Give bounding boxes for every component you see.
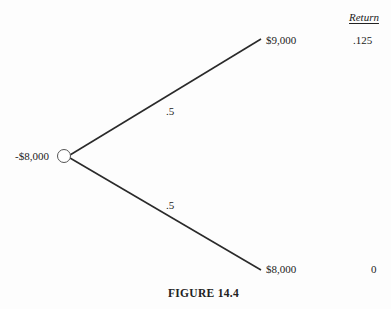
upper-branch-probability: .5 bbox=[166, 105, 174, 117]
branch-line-upper bbox=[70, 39, 261, 155]
lower-branch-probability: .5 bbox=[166, 199, 174, 211]
chance-node-icon bbox=[58, 150, 71, 163]
root-investment-label: -$8,000 bbox=[15, 150, 49, 162]
upper-outcome-return: .125 bbox=[353, 34, 372, 46]
upper-outcome-value: $9,000 bbox=[266, 34, 296, 46]
return-column-header: Return bbox=[349, 11, 379, 23]
decision-tree-diagram bbox=[0, 0, 391, 309]
figure-canvas: Return -$8,000 .5 $9,000 .125 .5 $8,000 … bbox=[0, 0, 391, 309]
lower-outcome-value: $8,000 bbox=[266, 263, 296, 275]
lower-outcome-return: 0 bbox=[371, 263, 377, 275]
branch-line-lower bbox=[70, 158, 261, 270]
figure-caption: FIGURE 14.4 bbox=[168, 287, 239, 299]
